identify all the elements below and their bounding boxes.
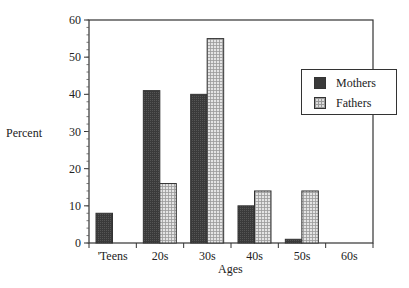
- mothers-bar: [191, 94, 208, 243]
- mothers-bar: [238, 206, 255, 243]
- mothers-swatch: [314, 77, 326, 89]
- svg-text:60: 60: [69, 13, 81, 27]
- svg-text:50s: 50s: [294, 249, 311, 263]
- legend-item-fathers: Fathers: [314, 96, 371, 110]
- bar-chart: 0102030405060'Teens20s30s40s50s60s: [0, 0, 409, 288]
- y-axis-label: Percent: [6, 126, 42, 141]
- fathers-bar: [255, 191, 272, 243]
- svg-text:50: 50: [69, 50, 81, 64]
- svg-text:20: 20: [69, 162, 81, 176]
- svg-text:30: 30: [69, 125, 81, 139]
- svg-text:30s: 30s: [199, 249, 216, 263]
- legend-label-mothers: Mothers: [336, 76, 376, 91]
- mothers-bar: [285, 239, 302, 243]
- fathers-bar: [207, 39, 224, 243]
- fathers-swatch: [314, 97, 326, 109]
- mothers-bar: [96, 213, 113, 243]
- mothers-bar: [143, 91, 160, 243]
- svg-text:60s: 60s: [341, 249, 358, 263]
- fathers-bar: [160, 184, 177, 243]
- svg-text:0: 0: [75, 236, 81, 250]
- svg-text:'Teens: 'Teens: [98, 249, 128, 263]
- fathers-bar: [302, 191, 319, 243]
- svg-text:20s: 20s: [152, 249, 169, 263]
- legend-item-mothers: Mothers: [314, 76, 376, 90]
- svg-text:40s: 40s: [246, 249, 263, 263]
- legend-label-fathers: Fathers: [336, 96, 371, 111]
- legend: Mothers Fathers: [301, 69, 397, 115]
- svg-text:40: 40: [69, 87, 81, 101]
- svg-text:10: 10: [69, 199, 81, 213]
- x-axis-label: Ages: [218, 262, 243, 277]
